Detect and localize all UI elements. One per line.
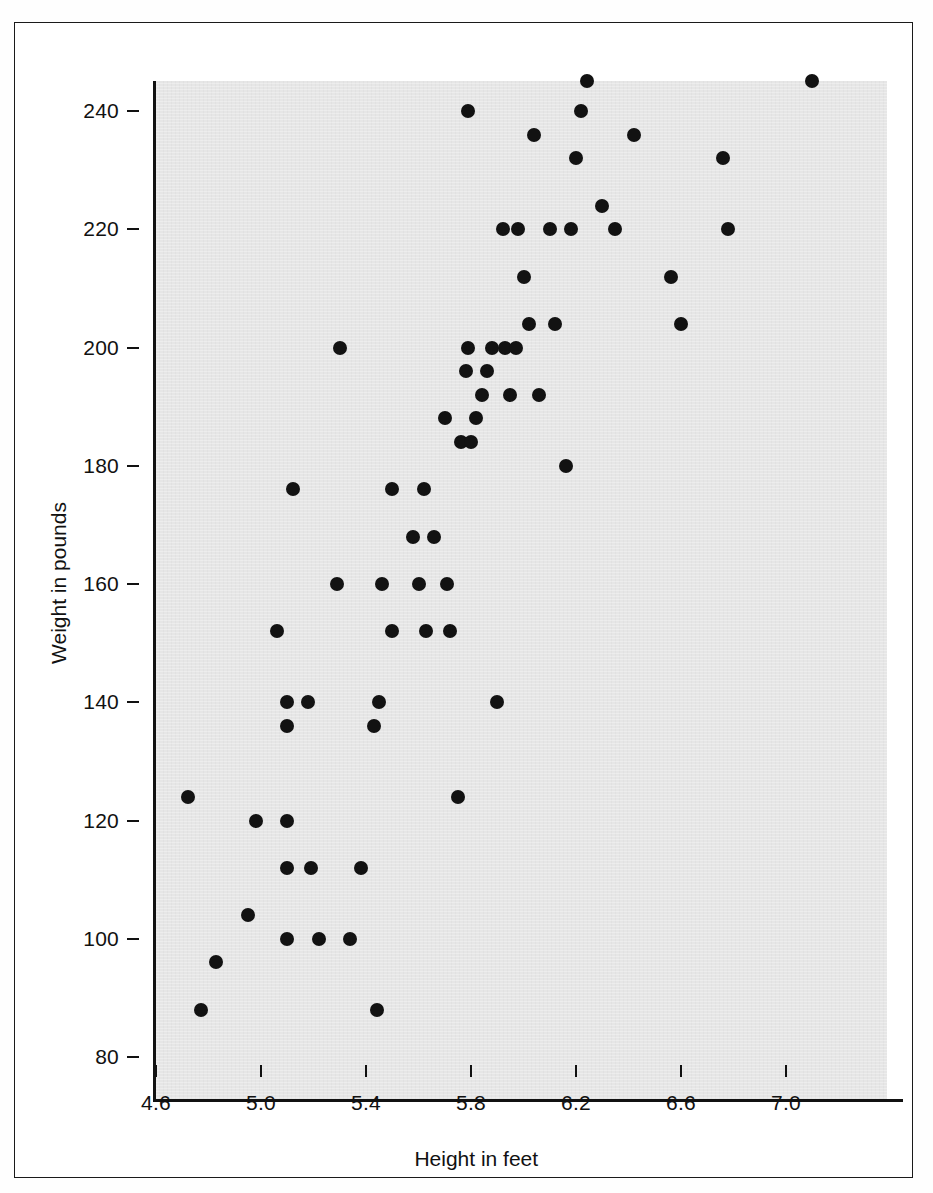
scatter-point <box>241 908 255 922</box>
scatter-point <box>459 364 473 378</box>
scatter-point <box>301 695 315 709</box>
scatter-point <box>249 814 263 828</box>
scatter-point <box>330 577 344 591</box>
scatter-point <box>664 270 678 284</box>
scatter-point <box>333 341 347 355</box>
scatter-point <box>280 719 294 733</box>
scatter-point <box>608 222 622 236</box>
scatter-point <box>461 104 475 118</box>
scatter-point <box>181 790 195 804</box>
scatter-point <box>451 790 465 804</box>
scatter-point <box>627 128 641 142</box>
scatter-point <box>480 364 494 378</box>
scatter-point <box>280 932 294 946</box>
scatter-point <box>485 341 499 355</box>
scatter-point <box>490 695 504 709</box>
scatter-point <box>674 317 688 331</box>
scatter-point <box>543 222 557 236</box>
scatter-point <box>569 151 583 165</box>
scatter-point <box>280 861 294 875</box>
scatter-point <box>280 814 294 828</box>
scatter-point <box>496 222 510 236</box>
scatter-point <box>286 482 300 496</box>
scatter-point <box>805 74 819 88</box>
scatter-point <box>475 388 489 402</box>
scatter-point <box>527 128 541 142</box>
scatter-point <box>419 624 433 638</box>
scatter-point <box>270 624 284 638</box>
scatter-point <box>406 530 420 544</box>
scatter-point <box>438 411 452 425</box>
scatter-point <box>574 104 588 118</box>
scatter-point <box>509 341 523 355</box>
scatter-point <box>721 222 735 236</box>
figure-frame: 80100120140160180200220240 4.65.05.45.86… <box>14 22 913 1178</box>
scatter-point <box>312 932 326 946</box>
scatter-point <box>427 530 441 544</box>
scatter-point <box>194 1003 208 1017</box>
scatter-point <box>716 151 730 165</box>
scatter-point <box>564 222 578 236</box>
scatter-point <box>412 577 426 591</box>
scatter-point <box>580 74 594 88</box>
scatter-point <box>385 624 399 638</box>
scatter-point <box>280 695 294 709</box>
scatter-point <box>461 341 475 355</box>
scatter-point <box>375 577 389 591</box>
scatter-point <box>469 411 483 425</box>
scatter-point <box>209 955 223 969</box>
scatter-points-layer <box>15 23 933 1193</box>
scatter-point <box>548 317 562 331</box>
scatter-point <box>372 695 386 709</box>
scatter-point <box>370 1003 384 1017</box>
scatter-point <box>385 482 399 496</box>
scatter-point <box>595 199 609 213</box>
scatter-point <box>559 459 573 473</box>
scatter-point <box>532 388 546 402</box>
scatter-point <box>343 932 357 946</box>
figure-container: 80100120140160180200220240 4.65.05.45.86… <box>0 0 933 1193</box>
scatter-point <box>417 482 431 496</box>
scatter-point <box>440 577 454 591</box>
scatter-point <box>304 861 318 875</box>
scatter-point <box>464 435 478 449</box>
scatter-point <box>503 388 517 402</box>
scatter-point <box>511 222 525 236</box>
scatter-point <box>367 719 381 733</box>
scatter-point <box>443 624 457 638</box>
scatter-point <box>354 861 368 875</box>
scatter-point <box>522 317 536 331</box>
scatter-point <box>517 270 531 284</box>
